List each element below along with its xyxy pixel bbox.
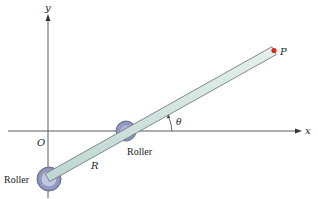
- rod-on-rollers-diagram: y x O θ P R Roller Roller: [0, 0, 318, 199]
- theta-label: θ: [176, 117, 182, 127]
- rod: [45, 47, 276, 182]
- angle-arc: [169, 117, 172, 131]
- y-axis-arrow-icon: [46, 14, 51, 21]
- tip-point-p: [271, 48, 276, 53]
- x-axis-label: x: [305, 125, 311, 136]
- roller-label-on-axis: Roller: [127, 146, 153, 157]
- x-axis-arrow-icon: [295, 129, 302, 134]
- length-r-label: R: [90, 160, 99, 171]
- point-p-label: P: [279, 46, 287, 57]
- roller-label-bottom-left: Roller: [4, 174, 30, 185]
- y-axis-label: y: [44, 2, 51, 13]
- origin-label: O: [37, 137, 45, 148]
- x-axis: [8, 129, 302, 134]
